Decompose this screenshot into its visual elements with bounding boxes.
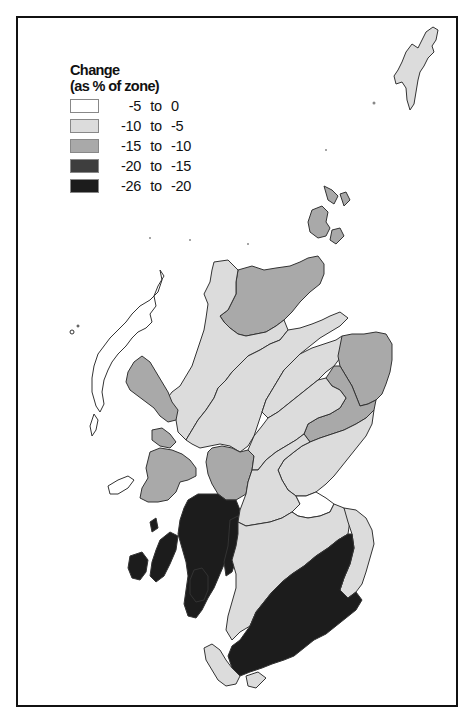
legend-range-high: -20 — [171, 178, 201, 194]
legend-range-low: -15 — [111, 138, 141, 154]
legend-range-high: -5 — [171, 118, 201, 134]
legend-range-to: to — [141, 158, 171, 174]
legend-swatch-medium-gray — [70, 139, 99, 153]
legend-range-low: -10 — [111, 118, 141, 134]
legend-swatch-white — [70, 99, 99, 113]
zone-orkney — [308, 206, 330, 238]
legend-range-high: -15 — [171, 158, 201, 174]
zone-mull — [140, 448, 196, 502]
legend-item: -26 to -20 — [70, 176, 201, 196]
legend-title-line1: Change — [70, 62, 201, 78]
legend-item: -5 to 0 — [70, 96, 201, 116]
legend-range-high: -10 — [171, 138, 201, 154]
legend-range-low: -26 — [111, 178, 141, 194]
legend-swatch-light-gray — [70, 119, 99, 133]
legend-range-to: to — [141, 178, 171, 194]
zone-arran — [190, 568, 208, 602]
map-legend: Change (as % of zone) -5 to 0 -10 to -5 … — [70, 62, 201, 196]
zone-skye — [126, 356, 178, 422]
legend-swatch-dark-gray — [70, 159, 99, 173]
legend-range-to: to — [141, 98, 171, 114]
legend-range-to: to — [141, 118, 171, 134]
legend-range-to: to — [141, 138, 171, 154]
legend-range-low: -5 — [111, 98, 141, 114]
zone-shetland — [394, 27, 438, 110]
legend-range-low: -20 — [111, 158, 141, 174]
legend-title-line2: (as % of zone) — [70, 78, 201, 94]
legend-item: -15 to -10 — [70, 136, 201, 156]
legend-range-high: 0 — [171, 98, 201, 114]
legend-swatch-black — [70, 179, 99, 193]
legend-item: -10 to -5 — [70, 116, 201, 136]
legend-item: -20 to -15 — [70, 156, 201, 176]
